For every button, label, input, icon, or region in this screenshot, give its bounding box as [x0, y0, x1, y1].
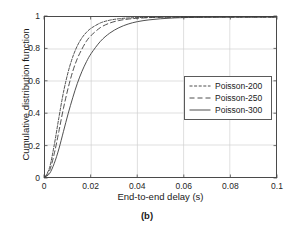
legend-line-swatch: [189, 82, 211, 90]
legend-item[interactable]: Poisson-250: [185, 92, 271, 104]
x-tick-label: 0: [42, 181, 47, 191]
legend-line-swatch: [189, 94, 211, 102]
legend-label: Poisson-250: [215, 93, 262, 103]
x-tick-label: 0.1: [271, 181, 283, 191]
y-tick-label: 1: [35, 11, 40, 21]
legend-line-swatch: [189, 106, 211, 114]
legend-item[interactable]: Poisson-300: [185, 104, 271, 116]
x-tick-label: 0.08: [222, 181, 239, 191]
x-tick-label: 0.06: [176, 181, 193, 191]
legend[interactable]: Poisson-200Poisson-250Poisson-300: [184, 76, 272, 120]
figure-page: 00.020.040.060.080.1 00.20.40.60.81 End-…: [0, 0, 294, 236]
figure-caption: (b): [0, 210, 294, 221]
y-tick-label: 0: [35, 173, 40, 183]
x-tick-label: 0.04: [129, 181, 146, 191]
x-tick-label: 0.02: [82, 181, 99, 191]
cdf-chart: 00.020.040.060.080.1 00.20.40.60.81 End-…: [0, 0, 294, 204]
legend-label: Poisson-300: [215, 105, 262, 115]
legend-label: Poisson-200: [215, 81, 262, 91]
y-axis-label: Cumulative distribution function: [20, 7, 31, 183]
legend-item[interactable]: Poisson-200: [185, 80, 271, 92]
x-axis-label: End-to-end delay (s): [44, 191, 277, 202]
